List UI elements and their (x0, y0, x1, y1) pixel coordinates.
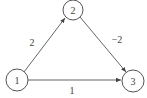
node-2-label: 2 (71, 5, 76, 16)
node-3: 3 (122, 70, 144, 92)
edge-label-1-2: 2 (30, 37, 35, 48)
node-1: 1 (6, 69, 28, 91)
graph-diagram: 2 −2 1 1 2 3 (0, 0, 147, 98)
edge-label-1-3: 1 (70, 85, 75, 96)
node-3-label: 3 (131, 76, 136, 87)
node-1-label: 1 (15, 75, 20, 86)
node-2: 2 (63, 0, 83, 20)
edge-label-2-3: −2 (112, 34, 123, 45)
